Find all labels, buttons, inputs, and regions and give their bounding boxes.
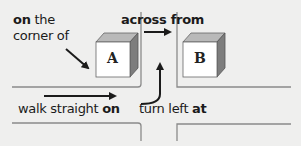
label-across-from: across from — [121, 12, 204, 28]
label-on-bold: on — [13, 12, 31, 27]
label-on-bold-2: on — [102, 101, 120, 116]
road-bottom-left-edge — [12, 123, 141, 141]
building-a-letter: A — [107, 50, 118, 66]
arrow-on-corner-icon — [66, 49, 88, 68]
label-on-the-corner-of: on the corner of — [13, 12, 69, 44]
arrow-turn-left-icon — [141, 64, 160, 104]
label-turn-left-at: turn left at — [139, 101, 206, 117]
label-turn-left: turn left — [139, 101, 192, 116]
road-bottom-right-edge — [177, 124, 291, 141]
label-the: the — [31, 12, 55, 27]
label-corner-of: corner of — [13, 28, 69, 43]
label-walk-straight: walk straight — [18, 101, 102, 116]
label-walk-straight-on: walk straight on — [18, 101, 120, 117]
label-across-from-bold: across from — [121, 12, 204, 27]
label-at-bold: at — [192, 101, 206, 116]
building-b-letter: B — [194, 50, 206, 66]
